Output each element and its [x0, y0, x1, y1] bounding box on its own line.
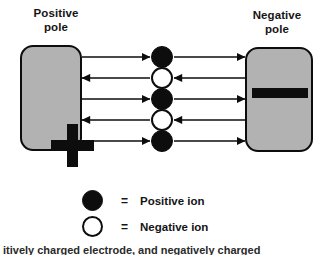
legend-equals-negative: =	[121, 220, 128, 234]
legend-equals-positive: =	[121, 194, 128, 208]
ion-migration-diagram: Positive pole Negative pole = Positive i…	[0, 0, 323, 255]
negative-ion-swatch-icon	[82, 216, 103, 237]
clipped-caption-text: itively charged electrode, and negativel…	[3, 244, 320, 255]
legend-label-positive-ion: Positive ion	[140, 195, 205, 207]
legend-label-negative-ion: Negative ion	[140, 221, 208, 233]
legend-item-negative-ion: = Negative ion	[82, 216, 208, 237]
positive-ion-swatch-icon	[82, 190, 103, 211]
legend-item-positive-ion: = Positive ion	[82, 190, 205, 211]
